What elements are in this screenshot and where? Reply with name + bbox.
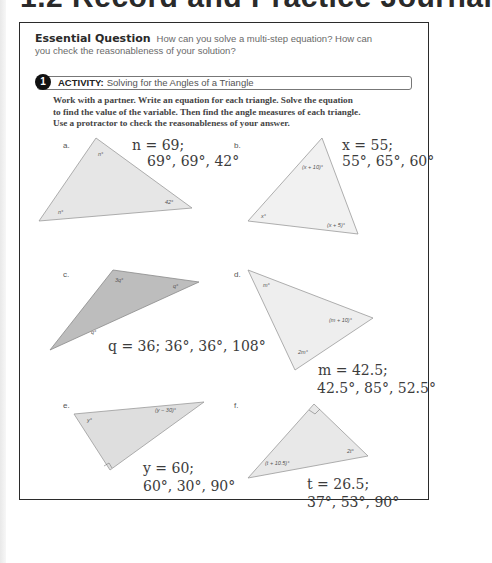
angle-label: (t + 10.5)° — [265, 460, 289, 466]
answer-variable: x = 55; — [342, 137, 393, 153]
problem-label: f. — [234, 401, 238, 410]
angle-label: y° — [87, 417, 92, 423]
angle-label: q° — [173, 283, 178, 289]
problem-label: d. — [234, 270, 241, 279]
answer-variable: t = 26.5; — [307, 476, 369, 492]
answer-variable: q = 36; 36°, 36°, 108° — [108, 338, 266, 354]
angle-label: (y − 30)° — [155, 407, 176, 413]
angle-label: (x + 5)° — [327, 222, 345, 228]
angle-label: q° — [91, 329, 96, 335]
answer-angles: 55°, 65°, 60° — [342, 153, 434, 169]
answer-variable: n = 69; — [132, 137, 184, 153]
angle-label: 42° — [165, 199, 173, 205]
angle-label: (m + 10)° — [329, 317, 352, 323]
answer-angles: 60°, 30°, 90° — [143, 478, 235, 494]
answer-angles: 37°, 53°, 90° — [307, 494, 399, 510]
answer-variable: m = 42.5; — [318, 362, 388, 378]
angle-label: n° — [98, 151, 103, 157]
angle-label: (x + 10)° — [302, 164, 323, 170]
triangle-f — [248, 404, 368, 478]
angle-label: 2m° — [298, 349, 308, 355]
problem-label: e. — [63, 401, 70, 410]
answer-variable: y = 60; — [143, 460, 194, 476]
angle-label: n° — [58, 209, 63, 215]
angle-label: 2t° — [347, 448, 354, 454]
answer-angles: 42.5°, 85°, 52.5° — [317, 380, 436, 396]
angle-label: 3q° — [115, 277, 123, 283]
angle-label: m° — [263, 282, 270, 288]
problem-label: b. — [234, 141, 241, 150]
problem-label: c. — [63, 270, 69, 279]
answer-angles: 69°, 69°, 42° — [147, 153, 239, 169]
angle-label: x° — [261, 213, 266, 219]
problem-label: a. — [63, 141, 70, 150]
